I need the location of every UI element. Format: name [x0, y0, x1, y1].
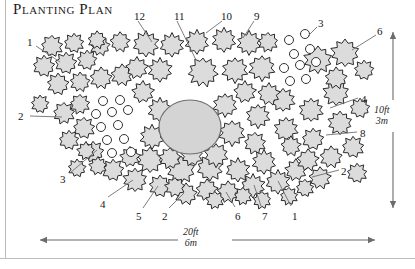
shrub-symbol	[348, 163, 367, 182]
shrub-symbol	[281, 136, 301, 156]
callout-number: 1	[27, 37, 33, 48]
groundcover-circle	[99, 97, 108, 106]
shrub-symbol	[212, 27, 236, 52]
groundcover-circle	[312, 58, 321, 67]
groundcover-circle	[114, 121, 123, 130]
callout-number: 11	[174, 11, 185, 22]
shrub-symbol	[222, 58, 248, 84]
groundcover-circle	[285, 36, 294, 45]
callout-number: 3	[60, 174, 66, 185]
groundcover-circle	[92, 110, 101, 119]
shrub-symbol	[237, 30, 261, 55]
shrub-symbol	[42, 35, 63, 56]
callout-number: 6	[235, 211, 241, 222]
shrub-symbol	[54, 103, 75, 124]
callout-number: 4	[361, 94, 367, 105]
shrub-symbol	[133, 31, 159, 57]
shrub-symbol	[303, 128, 324, 149]
shrub-symbol	[234, 81, 257, 103]
callout-number: 6	[377, 26, 383, 37]
central-feature-layer	[159, 100, 221, 154]
shrub-symbol	[110, 32, 130, 52]
planting-plan-figure: Planting Plan 112111093624823452671 20ft…	[0, 0, 415, 269]
shrub-symbol	[77, 50, 96, 69]
callout-number: 9	[254, 11, 260, 22]
shrub-symbol	[259, 33, 278, 52]
shrub-symbol	[252, 149, 275, 174]
dimension-arrowhead	[368, 237, 375, 243]
callout-number: 2	[162, 211, 168, 222]
groundcover-circle	[306, 45, 315, 54]
dimension-arrowhead	[390, 201, 396, 208]
callout-number: 2	[18, 111, 24, 122]
callout-number: 10	[221, 11, 232, 22]
shrub-symbol	[331, 39, 359, 67]
shrub-symbol	[245, 132, 266, 154]
shrub-symbol	[219, 121, 245, 147]
groundcover-circle	[286, 77, 295, 86]
width-dimension-label: 20ft 6m	[183, 226, 199, 248]
groundcover-circle	[108, 108, 117, 117]
height-meters: 3m	[374, 115, 390, 126]
planting-plan-drawing	[0, 0, 415, 269]
callout-leader-line	[143, 186, 158, 208]
groundcover-circle	[97, 123, 106, 132]
width-meters: 6m	[183, 237, 199, 248]
shrub-symbol	[188, 58, 218, 87]
callout-number: 12	[134, 11, 145, 22]
groundcover-circle	[302, 75, 311, 84]
shrub-symbol	[34, 55, 55, 76]
shrub-symbol	[297, 179, 314, 196]
shrub-symbol	[70, 72, 90, 92]
callout-leader-line	[352, 35, 376, 50]
height-feet: 10ft	[374, 104, 390, 115]
shrub-symbol	[90, 67, 112, 89]
callout-number: 4	[100, 199, 106, 210]
groundcover-circle	[103, 136, 112, 145]
groundcover-circle	[124, 106, 133, 115]
callout-number: 2	[341, 166, 347, 177]
shrub-symbol	[123, 168, 146, 191]
shrub-symbol	[132, 80, 155, 102]
callout-number: 3	[318, 18, 324, 29]
shrub-symbol	[74, 117, 95, 138]
shrub-symbol	[148, 57, 172, 82]
shrub-symbol	[246, 105, 270, 129]
shrub-symbol	[254, 191, 271, 209]
shrub-symbol	[160, 33, 184, 58]
shrub-symbol	[65, 33, 84, 52]
shrub-symbol	[31, 95, 49, 113]
groundcover-circle	[301, 30, 310, 39]
groundcover-circle	[116, 96, 125, 105]
shrub-symbol	[249, 56, 275, 82]
callout-number: 1	[292, 211, 298, 222]
shrub-symbol	[328, 111, 352, 134]
callout-number: 5	[136, 211, 142, 222]
shrub-symbol	[354, 60, 373, 79]
groundcover-circle	[120, 135, 129, 144]
shrub-symbol	[60, 130, 79, 149]
dimension-arrowhead	[40, 237, 47, 243]
groundcover-circle	[108, 149, 117, 158]
shrub-symbol	[320, 146, 342, 168]
groundcover-circle	[296, 61, 305, 70]
dimension-arrowhead	[390, 32, 396, 39]
shrub-symbol	[56, 52, 77, 73]
shrub-symbol	[274, 117, 298, 140]
width-feet: 20ft	[183, 226, 199, 237]
callout-number: 8	[360, 128, 366, 139]
central-feature-shape	[159, 100, 221, 154]
shrub-symbol	[185, 29, 208, 54]
shrub-symbol	[343, 136, 364, 157]
groundcover-circle	[280, 64, 289, 73]
groundcover-circle	[290, 50, 299, 59]
shrub-symbol	[235, 187, 252, 204]
shrub-symbol	[299, 98, 323, 121]
shrub-symbol	[47, 73, 69, 95]
callout-number: 7	[262, 211, 268, 222]
shrub-symbol	[137, 147, 163, 172]
callout-leader-line	[308, 27, 317, 36]
groundcover-circle	[127, 148, 136, 157]
height-dimension-label: 10ft 3m	[374, 104, 390, 126]
